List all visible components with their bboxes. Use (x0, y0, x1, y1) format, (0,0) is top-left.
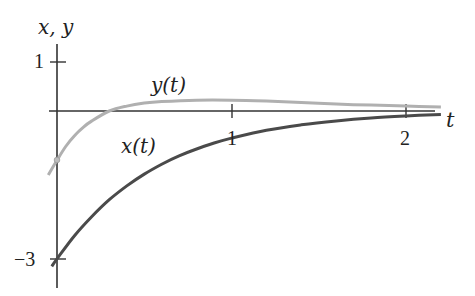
y-tick-label-m3: −3 (14, 249, 35, 269)
curve-x-of-t (52, 115, 441, 267)
x-axis-label: t (446, 110, 454, 131)
curve-label-x: x(t) (121, 136, 156, 156)
x-tick-label-2: 2 (400, 128, 410, 148)
y-tick-label-1: 1 (34, 51, 44, 71)
x-tick-label-1: 1 (227, 128, 237, 148)
point-y0 (54, 157, 60, 163)
y-axis-label: x, y (38, 17, 73, 37)
curve-label-y: y(t) (151, 75, 186, 95)
